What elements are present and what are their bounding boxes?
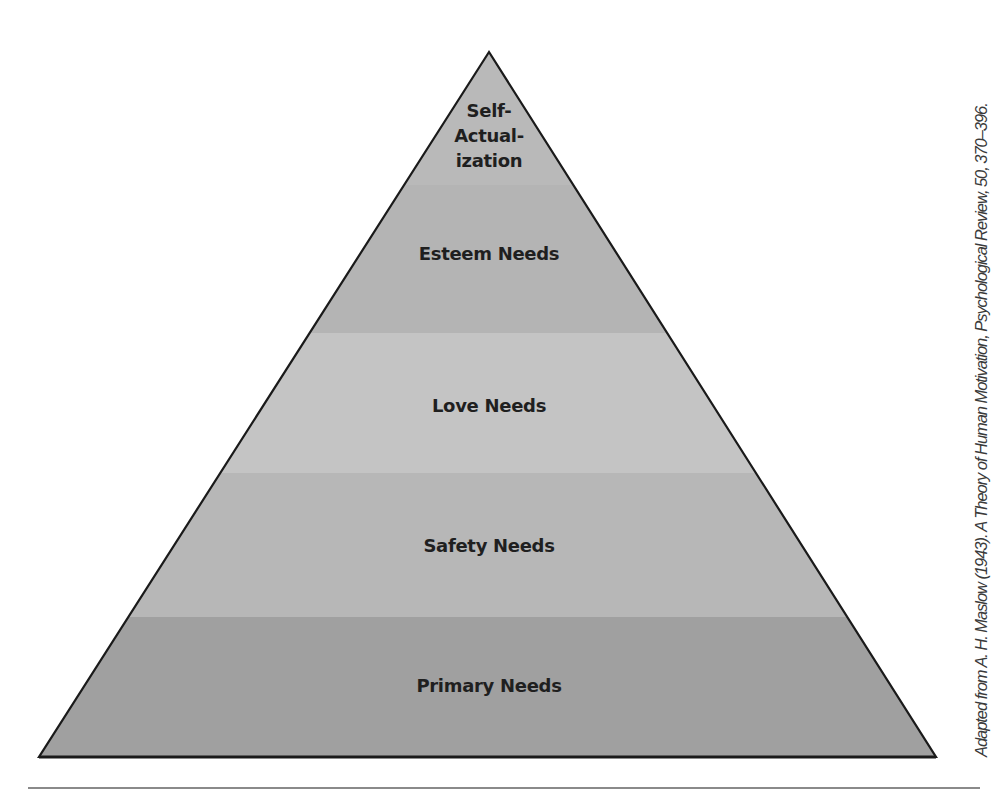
label-safety-needs: Safety Needs — [423, 535, 554, 556]
label-line: Actual- — [444, 123, 534, 148]
horizontal-divider — [28, 787, 980, 789]
label-self-actualization: Self- Actual- ization — [444, 98, 534, 173]
label-esteem-needs: Esteem Needs — [419, 243, 560, 264]
source-citation: Adapted from A. H. Maslow (1943). A Theo… — [972, 103, 991, 757]
label-love-needs: Love Needs — [432, 395, 546, 416]
label-line: ization — [444, 148, 534, 173]
label-primary-needs: Primary Needs — [416, 675, 561, 696]
label-line: Self- — [444, 98, 534, 123]
